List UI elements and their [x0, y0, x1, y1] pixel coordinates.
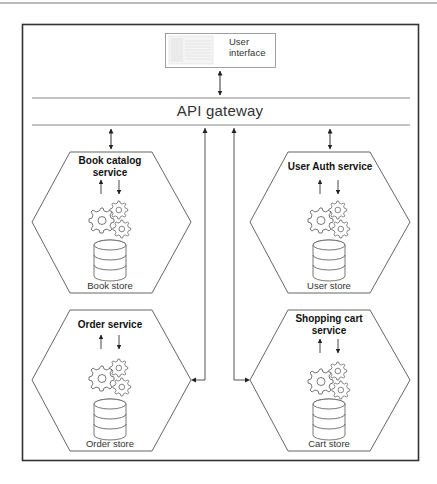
api-gateway-label: API gateway: [120, 102, 320, 120]
store-label-user: User store: [289, 280, 369, 291]
user-interface-label: User interface: [229, 36, 274, 59]
architecture-diagram: [0, 0, 437, 484]
service-title-order: Order service: [60, 319, 160, 331]
title-line: Shopping cart: [279, 313, 379, 325]
store-label-cart: Cart store: [289, 438, 369, 449]
ui-label-line1: User: [229, 36, 274, 47]
service-title-user-auth: User Auth service: [270, 161, 390, 173]
title-line: service: [60, 167, 160, 179]
service-title-shopping-cart: Shopping cart service: [279, 313, 379, 337]
store-label-book: Book store: [70, 280, 150, 291]
title-line: Book catalog: [60, 155, 160, 167]
title-line: service: [279, 325, 379, 337]
ui-thumbnail-icon: [169, 36, 213, 64]
service-title-book-catalog: Book catalog service: [60, 155, 160, 179]
ui-label-line2: interface: [229, 47, 274, 58]
store-label-order: Order store: [70, 438, 150, 449]
